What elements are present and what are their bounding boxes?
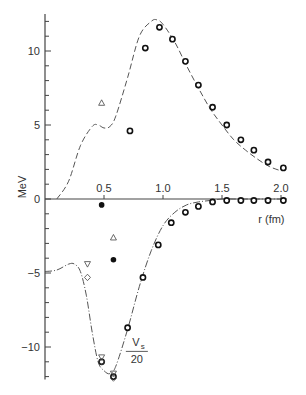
data-point-circle <box>238 198 243 203</box>
annotation-numerator: V <box>132 336 140 348</box>
data-point-circle <box>127 128 132 133</box>
data-point-diamond <box>84 274 90 280</box>
data-point-circle <box>210 199 215 204</box>
data-point-circle <box>143 45 148 50</box>
y-tick-label: −5 <box>27 267 40 279</box>
data-point-circle <box>170 37 175 42</box>
data-point-circle <box>196 82 201 87</box>
data-point-circle <box>196 204 201 209</box>
y-tick-label: 10 <box>28 45 40 57</box>
data-point-circle <box>125 325 130 330</box>
x-tick-label: 1.5 <box>214 182 229 194</box>
y-tick-label: 0 <box>34 193 40 205</box>
data-point-inverted-triangle <box>84 262 90 268</box>
chart-container: −10−505100.51.01.52.0MeVr (fm)Vs20 <box>0 0 306 395</box>
data-point-circle <box>183 210 188 215</box>
data-point-circle <box>224 122 229 127</box>
data-point-triangle <box>110 234 116 240</box>
annotation-denominator: 20 <box>131 353 143 365</box>
data-point-circle <box>140 275 145 280</box>
y-tick-label: 5 <box>34 119 40 131</box>
data-point-filled-circle <box>111 257 117 263</box>
x-tick-label: 1.0 <box>155 182 170 194</box>
data-point-circle <box>157 25 162 30</box>
data-point-circle <box>156 242 161 247</box>
upper-dashed-curve <box>57 19 281 199</box>
x-axis-label: r (fm) <box>258 213 284 225</box>
data-point-circle <box>169 220 174 225</box>
x-tick-label: 2.0 <box>273 182 288 194</box>
data-point-circle <box>281 198 286 203</box>
data-point-circle <box>224 198 229 203</box>
data-point-triangle <box>99 100 105 106</box>
data-point-circle <box>281 165 286 170</box>
lower-dashdot-curve <box>45 199 281 374</box>
annotation-subscript: s <box>141 342 145 351</box>
x-tick-label: 0.5 <box>96 182 111 194</box>
potential-chart: −10−505100.51.01.52.0MeVr (fm)Vs20 <box>0 0 306 395</box>
data-point-circle <box>238 137 243 142</box>
data-point-circle <box>265 159 270 164</box>
y-axis-label: MeV <box>16 175 28 198</box>
data-point-circle <box>251 198 256 203</box>
data-point-circle <box>210 105 215 110</box>
y-tick-label: −10 <box>21 341 40 353</box>
data-point-circle <box>183 59 188 64</box>
data-point-circle <box>251 148 256 153</box>
data-point-circle <box>265 198 270 203</box>
data-point-filled-circle <box>99 202 105 208</box>
